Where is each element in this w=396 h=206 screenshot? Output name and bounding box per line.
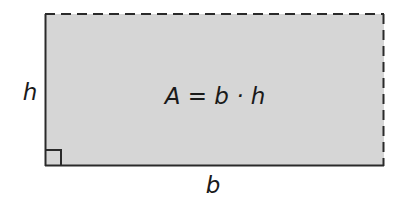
height-label: h <box>23 79 38 105</box>
area-formula: A = b · h <box>163 83 266 109</box>
rectangle-area-diagram: A = b · h h b <box>0 0 396 206</box>
base-label: b <box>206 172 221 198</box>
